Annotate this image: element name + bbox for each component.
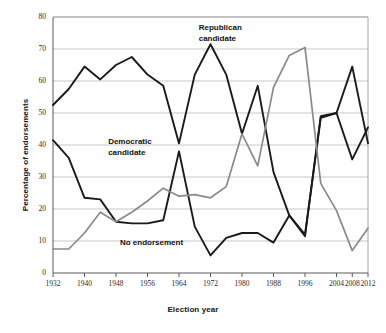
x-tick-label-1948: 1948 — [99, 279, 133, 288]
y-tick-label-20: 20 — [24, 204, 46, 213]
annotation-no-endorsement: No endorsement — [120, 237, 183, 248]
annotation-democratic: Democratic candidate — [108, 136, 152, 158]
y-tick-label-0: 0 — [24, 268, 46, 277]
y-tick-label-50: 50 — [24, 108, 46, 117]
x-tick-label-1940: 1940 — [68, 279, 102, 288]
x-tick-label-1956: 1956 — [131, 279, 165, 288]
x-tick-label-1980: 1980 — [225, 279, 259, 288]
line-chart: Percentage of endorsements Election year… — [0, 0, 386, 333]
y-tick-label-10: 10 — [24, 236, 46, 245]
x-axis-title: Election year — [0, 305, 386, 314]
annotation-republican: Republican candidate — [199, 22, 242, 44]
x-tick-label-2012: 2012 — [351, 279, 385, 288]
x-tick-label-1988: 1988 — [257, 279, 291, 288]
y-tick-label-80: 80 — [24, 12, 46, 21]
x-tick-label-1972: 1972 — [194, 279, 228, 288]
y-tick-label-70: 70 — [24, 44, 46, 53]
y-tick-label-40: 40 — [24, 140, 46, 149]
x-tick-label-1964: 1964 — [162, 279, 196, 288]
y-tick-label-30: 30 — [24, 172, 46, 181]
x-tick-label-1932: 1932 — [36, 279, 70, 288]
y-tick-label-60: 60 — [24, 76, 46, 85]
x-tick-label-1996: 1996 — [288, 279, 322, 288]
